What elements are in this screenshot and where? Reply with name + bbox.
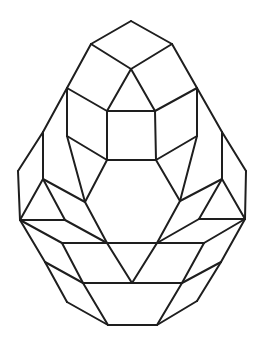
- tiling-edge: [197, 88, 222, 132]
- tiling-edge: [85, 160, 107, 202]
- tiling-edge: [180, 136, 197, 201]
- tiling-edge: [43, 88, 67, 132]
- tiling-edge: [67, 88, 107, 111]
- tiling-edge: [131, 44, 172, 69]
- tiling-edge: [156, 160, 180, 201]
- tiling-edge: [131, 21, 172, 44]
- tiling-edge: [157, 283, 182, 325]
- tiling-edge: [245, 171, 246, 219]
- tiling-edge: [155, 88, 197, 111]
- tiling-edge: [132, 243, 157, 283]
- tiling-edge: [107, 69, 131, 111]
- tiling-edge: [67, 44, 91, 88]
- tiling-edge: [91, 21, 131, 44]
- tiling-edge: [222, 179, 245, 219]
- tiling-edge: [222, 132, 246, 171]
- tiling-edge: [18, 171, 20, 220]
- tiling-edge: [91, 44, 131, 69]
- tiling-edge: [155, 111, 156, 160]
- egg-tiling-figure: [0, 0, 264, 337]
- tiling-edge: [172, 44, 197, 88]
- tiling-edge: [20, 179, 43, 220]
- tiling-edge: [131, 69, 155, 111]
- tiling-line-drawing: [0, 0, 264, 337]
- tiling-edge: [18, 132, 43, 171]
- tiling-edge: [107, 243, 132, 283]
